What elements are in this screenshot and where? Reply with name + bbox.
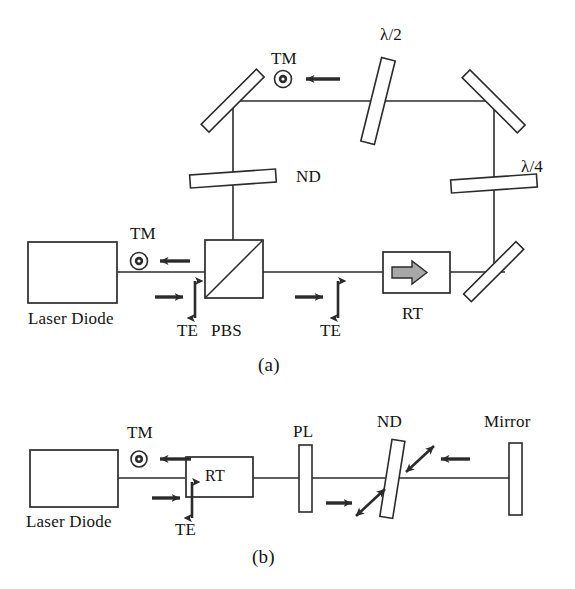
tm-symbol-icon-a-top — [275, 71, 292, 88]
pbs-label: PBS — [211, 322, 242, 339]
mirror-plate-icon-b — [509, 443, 522, 515]
rt-label-a: RT — [402, 305, 423, 322]
panel-a-caption: (a) — [258, 355, 280, 374]
nd-label-b: ND — [377, 413, 402, 430]
optical-diagram-svg — [0, 0, 575, 589]
tm-label-b: TM — [127, 424, 153, 441]
panel-a-beam-path — [117, 101, 505, 272]
tm-label-a-source: TM — [130, 225, 156, 242]
quarter-wave-label: λ/4 — [521, 158, 543, 175]
nd-filter-icon-a — [190, 169, 277, 188]
tm-symbol-icon-b — [131, 451, 147, 467]
tm-label-a-top: TM — [271, 50, 297, 67]
mirror-label-b: Mirror — [484, 413, 531, 430]
laser-diode-box-a — [28, 242, 117, 303]
tm-symbol-icon-a-source — [131, 253, 148, 270]
diagonal-polarization-arrow-b-backward — [406, 446, 434, 472]
pl-label-b: PL — [293, 423, 313, 440]
rt-rotator-a — [383, 252, 450, 293]
figure-root: Laser Diode TM TE PBS TE RT ND TM λ/2 λ/… — [0, 0, 575, 589]
quarter-wave-plate-icon — [451, 174, 538, 193]
te-label-b: TE — [175, 521, 196, 538]
polarizer-plate-icon-b — [299, 445, 312, 512]
half-wave-label: λ/2 — [380, 26, 402, 43]
rt-label-b: RT — [205, 468, 225, 484]
nd-filter-icon-b — [380, 439, 405, 518]
laser-diode-label-a: Laser Diode — [28, 310, 114, 327]
te-label-a-source: TE — [177, 322, 198, 339]
laser-diode-box-b — [30, 450, 118, 507]
nd-label-a: ND — [296, 168, 321, 185]
pbs-cube — [205, 240, 263, 298]
te-label-a-pbs: TE — [320, 322, 341, 339]
laser-diode-label-b: Laser Diode — [26, 513, 112, 530]
panel-b-caption: (b) — [252, 547, 275, 566]
